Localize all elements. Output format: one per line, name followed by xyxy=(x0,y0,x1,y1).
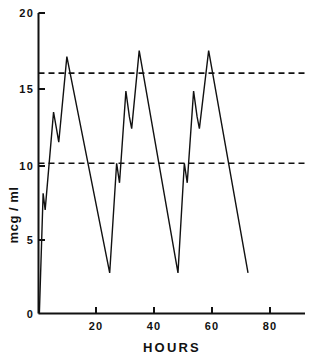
x-axis-title: HOURS xyxy=(143,340,201,355)
y-tick-label-20: 20 xyxy=(19,7,34,19)
line-chart: 20 15 10 5 0 20 40 60 80 HOURS mcg / ml xyxy=(0,0,309,357)
y-axis-title: mcg / ml xyxy=(6,187,21,244)
y-tick-label-5: 5 xyxy=(27,234,34,246)
y-tick-label-0: 0 xyxy=(27,308,34,320)
y-tick-label-15: 15 xyxy=(19,83,34,95)
x-tick-label-20: 20 xyxy=(89,320,104,332)
data-series-line xyxy=(39,51,248,314)
y-tick-label-10: 10 xyxy=(19,160,34,172)
x-tick-label-60: 60 xyxy=(205,320,220,332)
x-tick-label-80: 80 xyxy=(263,320,278,332)
chart-container: 20 15 10 5 0 20 40 60 80 HOURS mcg / ml xyxy=(0,0,309,357)
x-tick-label-40: 40 xyxy=(147,320,162,332)
